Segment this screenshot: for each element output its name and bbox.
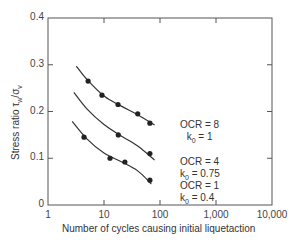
x-tick-label: 10,000	[247, 209, 294, 220]
y-tick-label: 0.3	[20, 58, 44, 69]
data-point	[147, 121, 152, 126]
x-axis-label: Number of cycles causing initial liqueta…	[62, 223, 255, 234]
y-tick-label: 0.2	[20, 105, 44, 116]
x-tick-label: 10	[79, 209, 129, 220]
x-tick-label: 1	[23, 209, 73, 220]
data-point	[116, 132, 121, 137]
legend-ocr1: OCR = 1 k0 = 0.4	[180, 180, 219, 208]
curve-series-0	[76, 66, 154, 125]
fitted-curves	[72, 66, 154, 184]
data-point	[115, 102, 120, 107]
axes-frame	[48, 18, 272, 205]
data-point	[147, 151, 152, 156]
data-point	[81, 135, 86, 140]
data-point	[85, 79, 90, 84]
data-points	[81, 79, 152, 183]
data-point	[147, 178, 152, 183]
axis-ticks	[48, 18, 272, 205]
data-point	[99, 93, 104, 98]
y-axis-label: Stress ratio τw/σv	[10, 85, 23, 160]
y-tick-label: 0.4	[20, 11, 44, 22]
x-tick-label: 1,000	[191, 209, 241, 220]
data-point	[122, 159, 127, 164]
legend-ocr8: OCR = 8 k0 = 1	[180, 119, 219, 147]
y-tick-label: 0.1	[20, 151, 44, 162]
x-tick-label: 100	[135, 209, 185, 220]
data-point	[135, 111, 140, 116]
y-tick-label: 0	[20, 198, 44, 209]
data-point	[107, 156, 112, 161]
